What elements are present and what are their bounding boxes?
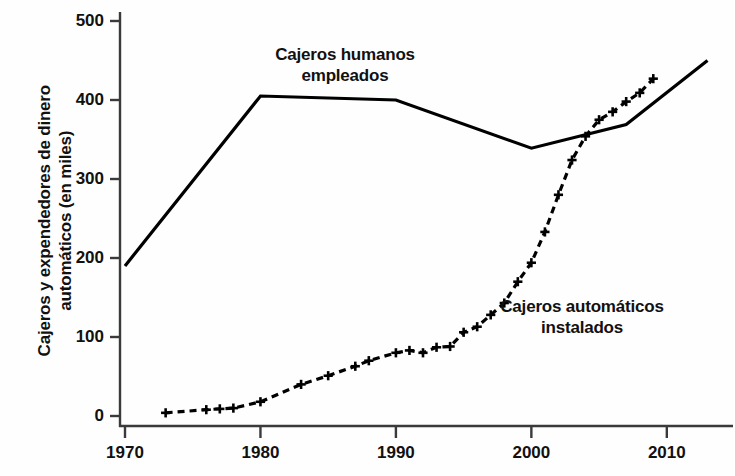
data-point-marker-plus xyxy=(161,408,170,417)
y-tick-label: 0 xyxy=(95,406,104,426)
data-point-marker-plus xyxy=(296,380,305,389)
y-tick-label: 400 xyxy=(76,90,104,110)
x-tick-label: 1970 xyxy=(106,443,144,463)
data-point-marker-plus xyxy=(432,343,441,352)
data-point-marker-plus xyxy=(256,397,265,406)
data-point-marker-plus xyxy=(391,348,400,357)
annotation-human-tellers: Cajeros humanos empleados xyxy=(230,44,460,87)
data-point-marker-plus xyxy=(324,371,333,380)
y-tick-label: 200 xyxy=(76,248,104,268)
data-point-marker-plus xyxy=(202,405,211,414)
x-tick-label: 1980 xyxy=(242,443,280,463)
data-point-marker-plus xyxy=(540,227,549,236)
annotation-atms-installed: Cajeros automáticos instalados xyxy=(457,296,707,339)
series-line-human-tellers xyxy=(125,61,708,266)
y-tick-label: 300 xyxy=(76,169,104,189)
chart-figure: Cajeros y expendedores de dinero automát… xyxy=(0,0,735,476)
data-point-marker-plus xyxy=(351,362,360,371)
data-point-marker-plus xyxy=(554,190,563,199)
x-tick-label: 1990 xyxy=(377,443,415,463)
data-point-marker-plus xyxy=(405,346,414,355)
y-tick-label: 100 xyxy=(76,327,104,347)
data-point-marker-plus xyxy=(418,348,427,357)
x-tick-label: 2000 xyxy=(512,443,550,463)
x-axis-ticks xyxy=(125,426,667,438)
x-tick-label: 2010 xyxy=(648,443,686,463)
data-point-marker-plus xyxy=(364,356,373,365)
y-tick-label: 500 xyxy=(76,11,104,31)
series-line-atms-installed xyxy=(166,79,654,413)
data-point-marker-plus xyxy=(215,404,224,413)
data-point-marker-plus xyxy=(229,404,238,413)
y-axis-ticks xyxy=(110,21,120,416)
